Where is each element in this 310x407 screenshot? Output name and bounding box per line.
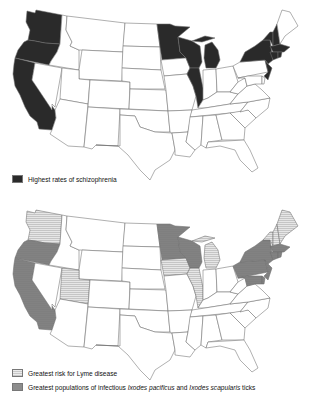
legend-item-lyme-risk: Greatest risk for Lyme disease xyxy=(12,369,117,377)
state-az xyxy=(50,99,88,147)
state-de xyxy=(262,276,265,284)
state-me xyxy=(277,210,298,244)
state-ny xyxy=(240,240,273,264)
state-wa xyxy=(26,10,62,44)
state-ri xyxy=(278,252,282,258)
state-de xyxy=(262,76,265,84)
schizophrenia-map-panel: Highest rates of schizophrenia xyxy=(0,0,310,200)
legend-swatch-dotted xyxy=(12,383,23,391)
state-nd xyxy=(123,223,160,247)
lyme-map-panel: Greatest risk for Lyme disease Greatest … xyxy=(0,200,310,407)
state-wa xyxy=(26,210,62,244)
legend-item-tick-populations: Greatest populations of infectious Ixode… xyxy=(12,383,255,391)
state-mt xyxy=(66,16,125,52)
state-fl xyxy=(206,340,258,372)
legend-label: Highest rates of schizophrenia xyxy=(28,176,117,183)
state-fl xyxy=(206,140,258,172)
state-nm xyxy=(84,307,120,349)
state-ks xyxy=(129,289,168,311)
state-co xyxy=(88,280,130,309)
state-mt xyxy=(66,216,125,252)
state-me xyxy=(277,10,298,44)
legend-swatch-striped xyxy=(12,369,23,377)
state-sd xyxy=(122,46,161,70)
state-ri xyxy=(278,52,282,58)
state-pa xyxy=(233,60,268,78)
state-ks xyxy=(129,89,168,111)
state-az xyxy=(50,299,88,347)
legend-label: Greatest risk for Lyme disease xyxy=(28,370,117,377)
legend-label: Greatest populations of infectious Ixode… xyxy=(28,384,255,391)
us-map-schizophrenia xyxy=(0,0,310,200)
state-ia xyxy=(161,58,190,76)
state-ia xyxy=(161,258,190,276)
state-nm xyxy=(84,107,120,149)
state-wy xyxy=(79,250,123,281)
state-sd xyxy=(122,246,161,270)
legend-item-schizophrenia: Highest rates of schizophrenia xyxy=(12,175,117,183)
state-wy xyxy=(79,50,123,81)
state-nd xyxy=(123,23,160,47)
state-ny xyxy=(240,40,273,64)
state-co xyxy=(88,80,130,109)
state-pa xyxy=(233,260,268,278)
legend-swatch-dark xyxy=(12,175,23,183)
